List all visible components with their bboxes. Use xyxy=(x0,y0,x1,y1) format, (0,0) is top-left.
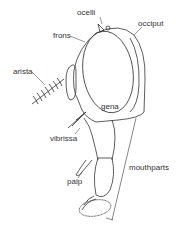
fly-head-drawing xyxy=(0,0,182,227)
label-frons: frons xyxy=(53,32,71,40)
label-mouthparts: mouthparts xyxy=(129,164,169,172)
vibrissa-bristles xyxy=(68,112,86,128)
label-occiput: occiput xyxy=(138,20,163,28)
antenna xyxy=(66,65,76,100)
label-ocelli: ocelli xyxy=(77,9,95,17)
palp-structure xyxy=(76,160,92,176)
label-arista: arista xyxy=(13,68,33,76)
label-gena: gena xyxy=(101,103,119,111)
proboscis xyxy=(94,158,113,197)
label-vibrissa: vibrissa xyxy=(50,135,77,143)
label-palp: palp xyxy=(67,178,82,186)
